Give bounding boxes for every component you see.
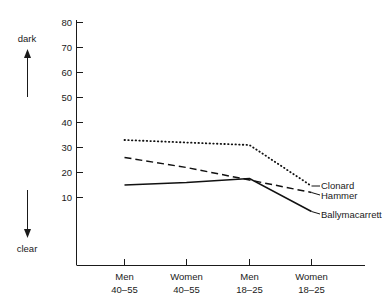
up-arrow-icon	[24, 49, 31, 58]
x-label-women-40-55-top: Women	[170, 271, 203, 282]
x-label-men-40-55-bottom: 40–55	[111, 284, 137, 295]
down-arrow-icon	[24, 229, 31, 238]
y-tick-label-40: 40	[61, 117, 72, 128]
leader-ballymacarrett	[312, 212, 321, 215]
series-line-ballymacarrett	[125, 179, 312, 212]
line-chart: 80 70 60 50 40 30 20 10 Men 40–55 Women …	[0, 0, 387, 301]
x-label-men-40-55-top: Men	[115, 271, 133, 282]
x-label-men-18-25-top: Men	[240, 271, 258, 282]
y-axis-ticks	[77, 23, 84, 198]
x-axis-category-labels: Men 40–55 Women 40–55 Men 18–25 Women 18…	[111, 271, 327, 295]
leader-hammer	[312, 193, 321, 196]
scale-direction-annotation: dark clear	[17, 33, 38, 254]
clear-label: clear	[17, 243, 38, 254]
y-tick-label-50: 50	[61, 92, 72, 103]
x-label-women-40-55-bottom: 40–55	[173, 284, 199, 295]
series-line-hammer	[125, 158, 312, 193]
y-tick-label-10: 10	[61, 192, 72, 203]
series-line-clonard	[125, 140, 312, 186]
y-tick-label-20: 20	[61, 167, 72, 178]
chart-container: 80 70 60 50 40 30 20 10 Men 40–55 Women …	[0, 0, 387, 301]
y-tick-label-80: 80	[61, 17, 72, 28]
series-label-hammer: Hammer	[321, 190, 357, 201]
x-label-men-18-25-bottom: 18–25	[236, 284, 262, 295]
dark-label: dark	[18, 33, 37, 44]
x-axis-ticks	[125, 259, 312, 266]
x-label-women-18-25-top: Women	[295, 271, 328, 282]
y-tick-label-70: 70	[61, 42, 72, 53]
series-label-ballymacarrett: Ballymacarrett	[321, 209, 382, 220]
y-axis-tick-labels: 80 70 60 50 40 30 20 10	[61, 17, 72, 203]
x-label-women-18-25-bottom: 18–25	[298, 284, 324, 295]
y-tick-label-60: 60	[61, 67, 72, 78]
y-tick-label-30: 30	[61, 142, 72, 153]
